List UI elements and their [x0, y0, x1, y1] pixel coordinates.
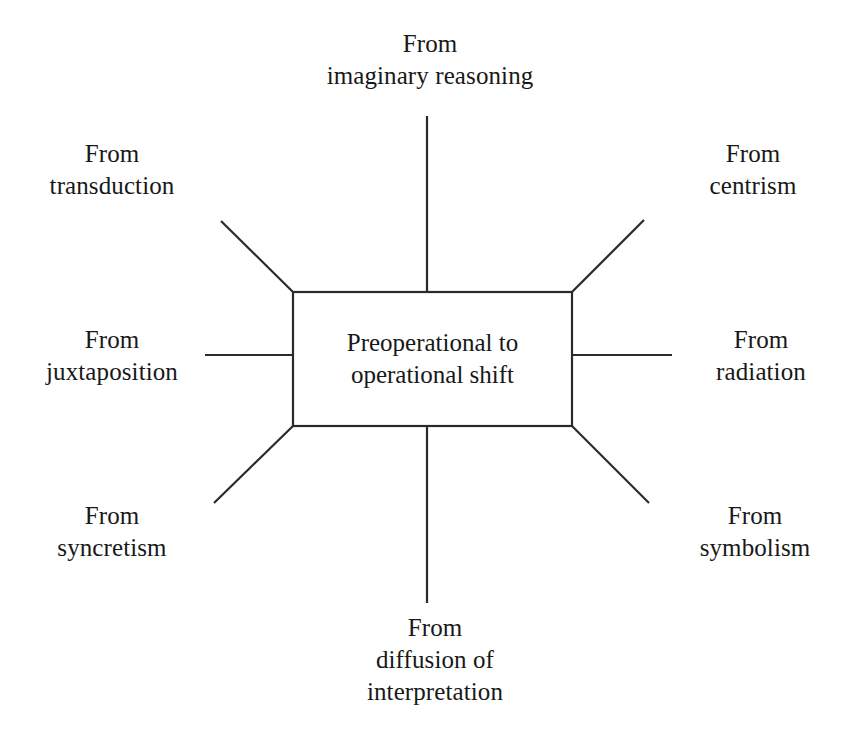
node-label-symbolism: From symbolism [660, 500, 850, 564]
spoke-top-left [221, 221, 293, 292]
diagram-canvas: Preoperational to operational shift From… [0, 0, 859, 752]
node-label-diffusion-of-interpretation: From diffusion of interpretation [312, 612, 558, 708]
node-label-centrism: From centrism [660, 138, 846, 202]
node-label-transduction: From transduction [12, 138, 212, 202]
center-node-label: Preoperational to operational shift [293, 292, 572, 426]
node-label-juxtaposition: From juxtaposition [12, 324, 212, 388]
spoke-bottom-right [572, 426, 649, 503]
node-label-syncretism: From syncretism [12, 500, 212, 564]
spoke-bottom-left [214, 426, 293, 503]
node-label-imaginary-reasoning: From imaginary reasoning [302, 28, 558, 92]
node-label-radiation: From radiation [668, 324, 854, 388]
spoke-top-right [572, 220, 644, 292]
